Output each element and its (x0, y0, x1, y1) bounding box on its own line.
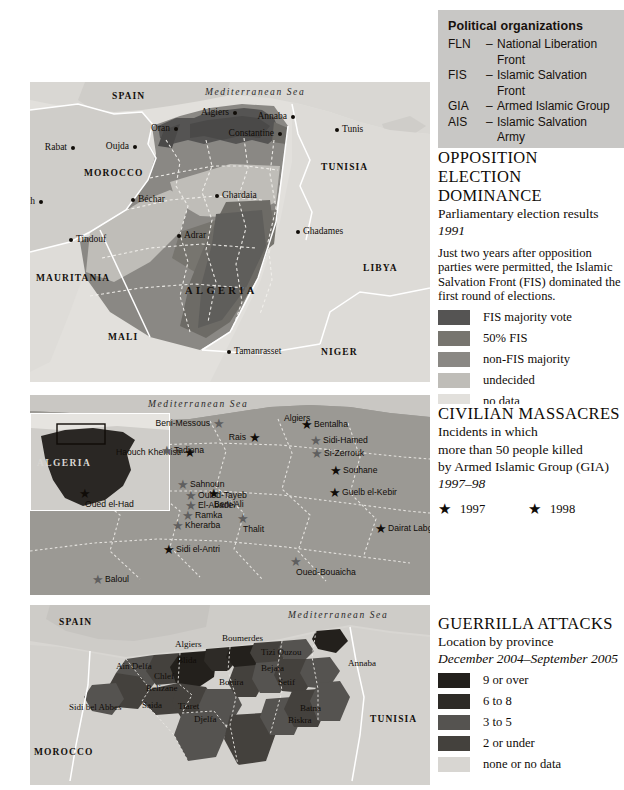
guerrilla-attacks-panel: GUERRILLA ATTACKS Location by province D… (438, 614, 624, 772)
map-civilian-massacres[interactable]: Mediterranean Sea ALGERIA Algiers★Beni-M… (30, 395, 430, 595)
massacre-star-icon: ★ (161, 444, 173, 457)
city-dot-icon (296, 230, 300, 234)
city-dot-icon (335, 128, 339, 132)
panel2-legend-label: 1998 (550, 502, 575, 517)
panel3-legend-row: none or no data (438, 757, 624, 772)
panel1-subtitle-text: Parliamentary election results (438, 206, 598, 221)
panel1-legend-row: 50% FIS (438, 331, 624, 346)
city-dot-icon (39, 200, 43, 204)
panel1-legend-label: non-FIS majority (483, 352, 570, 367)
city-dot-icon (177, 234, 181, 238)
panel1-legend-row: FIS majority vote (438, 310, 624, 325)
massacre-star-icon: ★ (172, 519, 184, 532)
panel1-title-line2: DOMINANCE (438, 186, 624, 205)
panel2-legend-item: ★1998 (528, 502, 618, 517)
panel1-blurb: Just two years after opposition parties … (438, 246, 624, 304)
organization-name: National Liberation Front (497, 37, 614, 68)
panel2-legend-label: 1997 (460, 502, 485, 517)
panel1-title-line1: OPPOSITION ELECTION (438, 148, 624, 186)
panel1-legend-label: 50% FIS (483, 331, 527, 346)
massacre-star-icon: ★ (330, 464, 342, 477)
panel3-legend-label: 9 or over (483, 673, 528, 688)
map2-inset-graphic (31, 414, 169, 510)
massacre-star-icon: ★ (208, 487, 220, 500)
panel1-subtitle-year: 1991 (438, 223, 465, 238)
city-dot-icon (233, 111, 237, 115)
map3-graphic (30, 605, 430, 785)
panel2-years: 1997–98 (438, 476, 624, 493)
panel3-legend-row: 2 or under (438, 736, 624, 751)
star-icon: ★ (438, 502, 451, 517)
organization-row: GIA–Armed Islamic Group (448, 99, 614, 115)
city-dot-icon (71, 146, 75, 150)
panel3-legend-label: 3 to 5 (483, 715, 512, 730)
massacre-star-icon: ★ (311, 447, 323, 460)
organization-abbr: AIS (448, 115, 486, 146)
map1-graphic (30, 82, 430, 382)
organization-row: FIS–Islamic Salvation Front (448, 68, 614, 99)
panel3-legend-swatch (438, 757, 470, 772)
organization-dash: – (486, 68, 497, 99)
massacre-star-icon: ★ (79, 487, 91, 500)
map-guerrilla-attacks[interactable]: Mediterranean Sea SPAINMOROCCOTUNISIA Al… (30, 605, 430, 785)
panel3-subtitle: Location by province (438, 634, 624, 651)
panel1-legend-label: undecided (483, 373, 535, 388)
panel3-title: GUERRILLA ATTACKS (438, 614, 624, 633)
city-dot-icon (278, 132, 282, 136)
organization-dash: – (486, 37, 497, 68)
panel1-legend-row: non-FIS majority (438, 352, 624, 367)
city-dot-icon (227, 350, 231, 354)
map-opposition-election[interactable]: Mediterranean Sea SPAINMOROCCOTUNISIALIB… (30, 82, 430, 382)
massacre-star-icon: ★ (375, 522, 387, 535)
organization-row: AIS–Islamic Salvation Army (448, 115, 614, 146)
panel3-legend-label: 6 to 8 (483, 694, 512, 709)
panel1-legend-swatch (438, 310, 470, 325)
organization-row: FLN–National Liberation Front (448, 37, 614, 68)
organization-name: Armed Islamic Group (497, 99, 614, 115)
panel1-legend-swatch (438, 331, 470, 346)
panel2-line2: more than 50 people killed (438, 442, 624, 459)
city-dot-icon (174, 127, 178, 131)
city-dot-icon (215, 194, 219, 198)
panel2-title: CIVILIAN MASSACRES (438, 404, 624, 423)
city-dot-icon (69, 238, 73, 242)
organization-abbr: FIS (448, 68, 486, 99)
organizations-title: Political organizations (448, 19, 614, 33)
organization-dash: – (486, 115, 497, 146)
organization-abbr: GIA (448, 99, 486, 115)
panel1-subtitle: Parliamentary election results 1991 (438, 206, 624, 239)
panel3-legend-swatch (438, 715, 470, 730)
organization-abbr: FLN (448, 37, 486, 68)
panel3-legend-row: 9 or over (438, 673, 624, 688)
panel3-legend: 9 or over6 to 83 to 52 or undernone or n… (438, 673, 624, 772)
massacre-star-icon: ★ (329, 486, 341, 499)
map2-inset: ALGERIA (30, 413, 170, 511)
panel3-period: December 2004–September 2005 (438, 651, 624, 668)
massacre-star-icon: ★ (163, 543, 175, 556)
massacre-star-icon: ★ (301, 418, 313, 431)
massacre-star-icon: ★ (237, 512, 249, 525)
panel1-legend-swatch (438, 352, 470, 367)
panel1-legend: FIS majority vote50% FISnon-FIS majority… (438, 310, 624, 409)
panel1-legend-row: undecided (438, 373, 624, 388)
panel2-line3: by Armed Islamic Group (GIA) (438, 459, 624, 476)
massacre-star-icon: ★ (92, 573, 104, 586)
panel2-line1: Incidents in which (438, 424, 624, 441)
panel3-legend-swatch (438, 736, 470, 751)
city-dot-icon (133, 145, 137, 149)
panel2-legend: ★1997★1998 (438, 502, 624, 517)
organization-name: Islamic Salvation Army (497, 115, 614, 146)
panel3-legend-swatch (438, 694, 470, 709)
panel3-legend-swatch (438, 673, 470, 688)
massacre-star-icon: ★ (213, 417, 225, 430)
civilian-massacres-panel: CIVILIAN MASSACRES Incidents in which mo… (438, 404, 624, 517)
city-dot-icon (291, 115, 295, 119)
massacre-star-icon: ★ (184, 446, 196, 459)
panel3-legend-row: 3 to 5 (438, 715, 624, 730)
panel3-legend-label: 2 or under (483, 736, 535, 751)
panel2-legend-item: ★1997 (438, 502, 528, 517)
organization-dash: – (486, 99, 497, 115)
opposition-election-panel: OPPOSITION ELECTION DOMINANCE Parliament… (438, 148, 624, 409)
panel3-legend-row: 6 to 8 (438, 694, 624, 709)
organization-name: Islamic Salvation Front (497, 68, 614, 99)
